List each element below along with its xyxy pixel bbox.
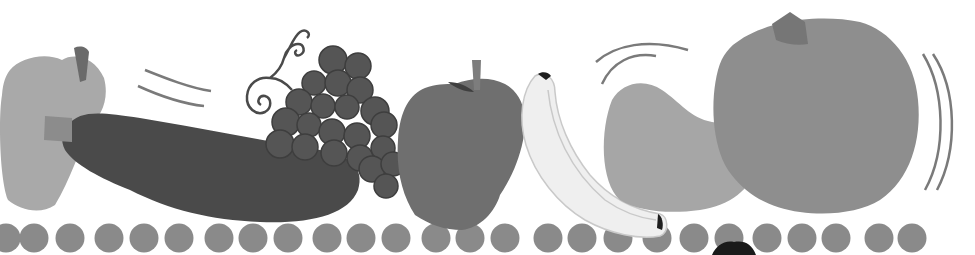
dot (130, 224, 159, 253)
dot (568, 224, 597, 253)
dot (865, 224, 894, 253)
dot (56, 224, 85, 253)
dot (95, 224, 124, 253)
dot (680, 224, 709, 253)
dot (491, 224, 520, 253)
apple (398, 60, 525, 230)
motion-lines-left (138, 70, 211, 106)
dot (382, 224, 411, 253)
dot (165, 224, 194, 253)
dot (788, 224, 817, 253)
dot (534, 224, 563, 253)
dot (822, 224, 851, 253)
dot (347, 224, 376, 253)
grape (297, 113, 321, 137)
dot (313, 224, 342, 253)
grape (374, 174, 398, 198)
dot (205, 224, 234, 253)
grape (266, 130, 294, 158)
dot (239, 224, 268, 253)
dot (898, 224, 927, 253)
dot (274, 224, 303, 253)
fruit-border-illustration (0, 0, 975, 255)
grape (371, 112, 397, 138)
grape (335, 95, 359, 119)
grape (292, 134, 318, 160)
motion-lines-right (923, 54, 952, 190)
pumpkin (713, 12, 918, 214)
grape (321, 140, 347, 166)
motion-lines-top (596, 44, 688, 84)
dot (753, 224, 782, 253)
dot (0, 224, 21, 253)
grape (319, 46, 347, 74)
dot (20, 224, 49, 253)
